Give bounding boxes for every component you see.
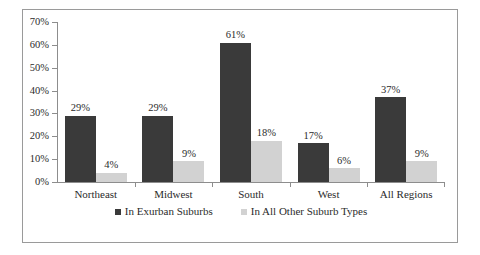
legend-item[interactable]: In All Other Suburb Types <box>241 206 367 217</box>
y-axis-tick-label: 30% <box>30 108 49 119</box>
bar-value-label: 17% <box>303 131 322 142</box>
bar-value-label: 4% <box>104 160 118 171</box>
y-axis-tick-label: 0% <box>35 177 49 188</box>
x-axis-category-label: Midwest <box>154 189 193 200</box>
bar[interactable]: 9% <box>173 161 204 182</box>
bar[interactable]: 61% <box>220 43 251 182</box>
bar[interactable]: 6% <box>329 168 360 182</box>
bar[interactable]: 37% <box>375 97 406 182</box>
bar-value-label: 9% <box>415 149 429 160</box>
bar-value-label: 29% <box>148 103 167 114</box>
y-axis-tick-label: 10% <box>30 154 49 165</box>
bar-value-label: 37% <box>381 85 400 96</box>
y-axis-tick-label: 70% <box>30 17 49 28</box>
bar-value-label: 6% <box>337 156 351 167</box>
bar-chart-figure: 0%10%20%30%40%50%60%70% 29%4%Northeast29… <box>22 9 458 243</box>
y-axis-tick-label: 40% <box>30 85 49 96</box>
bar[interactable]: 9% <box>406 161 437 182</box>
legend-swatch-icon <box>115 209 121 215</box>
bar-value-label: 18% <box>257 128 276 139</box>
legend-item[interactable]: In Exurban Suburbs <box>115 206 213 217</box>
y-axis-tick-label: 20% <box>30 131 49 142</box>
x-axis-separator <box>290 183 291 187</box>
bar-value-label: 9% <box>182 149 196 160</box>
y-axis-tick-label: 60% <box>30 40 49 51</box>
chart-legend: In Exurban SuburbsIn All Other Suburb Ty… <box>23 206 459 217</box>
x-axis-category-label: All Regions <box>380 189 433 200</box>
bar[interactable]: 29% <box>65 116 96 182</box>
bar-group-all-regions: 37%9%All Regions <box>367 22 445 182</box>
bar-group-south: 61%18%South <box>212 22 290 182</box>
x-axis-separator <box>135 183 136 187</box>
legend-swatch-icon <box>241 209 247 215</box>
x-axis-separator <box>367 183 368 187</box>
bar-value-label: 61% <box>226 30 245 41</box>
bar[interactable]: 17% <box>298 143 329 182</box>
y-axis-tick <box>52 182 57 183</box>
legend-label: In All Other Suburb Types <box>251 206 367 217</box>
bar[interactable]: 4% <box>96 173 127 182</box>
plot-area: 0%10%20%30%40%50%60%70% 29%4%Northeast29… <box>57 22 445 183</box>
bar-group-west: 17%6%West <box>290 22 368 182</box>
legend-label: In Exurban Suburbs <box>125 206 213 217</box>
y-axis-tick-label: 50% <box>30 62 49 73</box>
bar[interactable]: 29% <box>142 116 173 182</box>
bar-group-midwest: 29%9%Midwest <box>135 22 213 182</box>
bar[interactable]: 18% <box>251 141 282 182</box>
x-axis-category-label: South <box>238 189 264 200</box>
x-axis-separator <box>212 183 213 187</box>
bar-value-label: 29% <box>71 103 90 114</box>
x-axis-line <box>57 182 445 183</box>
x-axis-category-label: West <box>318 189 340 200</box>
bar-group-northeast: 29%4%Northeast <box>57 22 135 182</box>
x-axis-category-label: Northeast <box>74 189 117 200</box>
x-axis-separator <box>444 183 445 187</box>
